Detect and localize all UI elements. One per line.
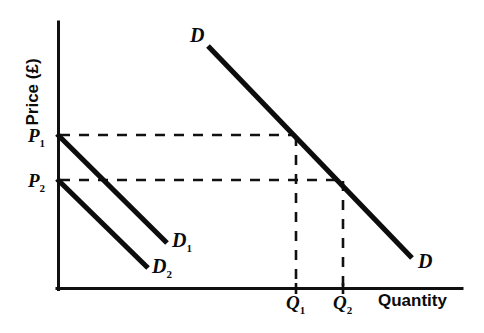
y-axis-title: Price (£)	[23, 58, 42, 125]
label-price-2-base: P	[27, 170, 40, 191]
label-quantity-2: Q2	[333, 292, 353, 316]
label-quantity-1-base: Q	[286, 292, 300, 313]
label-quantity-1-subscript: 1	[300, 304, 306, 316]
label-quantity-1: Q1	[286, 292, 305, 316]
label-price-1-subscript: 1	[40, 137, 46, 149]
diagram-canvas: Price (£) Quantity P1 P2 Q1 Q2 D D D1 D2	[0, 0, 484, 333]
label-demand-shift-1-base: D	[171, 229, 186, 251]
label-price-1-base: P	[27, 125, 40, 146]
label-demand-shift-2: D2	[151, 255, 172, 280]
label-price-2: P2	[27, 170, 46, 194]
label-demand-bottom: D	[417, 250, 432, 272]
label-demand-top: D	[189, 24, 204, 46]
label-price-2-subscript: 2	[40, 182, 46, 194]
label-quantity-2-subscript: 2	[347, 304, 353, 316]
label-price-1: P1	[27, 125, 45, 149]
demand-curve-d	[208, 46, 412, 258]
label-quantity-2-base: Q	[333, 292, 347, 313]
label-demand-shift-2-subscript: 2	[166, 268, 172, 280]
demand-curve-diagram: Price (£) Quantity P1 P2 Q1 Q2 D D D1 D2	[0, 0, 484, 333]
label-demand-shift-2-base: D	[151, 255, 166, 277]
demand-curve-d2	[57, 179, 148, 268]
label-demand-shift-1-subscript: 1	[186, 242, 192, 254]
x-axis-title: Quantity	[378, 291, 447, 310]
label-demand-shift-1: D1	[171, 229, 192, 254]
demand-curve-d1	[57, 134, 167, 243]
